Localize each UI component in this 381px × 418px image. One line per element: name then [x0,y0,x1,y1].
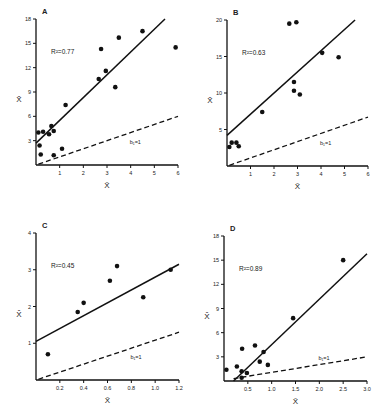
data-point [287,21,292,26]
r-squared-annotation: R²=0.89 [239,265,263,272]
y-tick-label: 3 [28,267,31,273]
r-squared-annotation: R²=0.77 [51,48,75,55]
data-point [51,153,56,158]
data-point [224,367,229,372]
data-point [36,130,41,135]
data-point [266,363,271,368]
x-tick-label: 0.5 [244,386,252,392]
x-tick-label: 2.0 [316,386,324,392]
reference-line-label: b₁=1 [318,355,329,361]
y-tick-label: 3 [28,138,31,144]
figure-four-panel-scatter: 369121518123456AX̄X̂R²=0.77b₁=1510152012… [0,0,381,418]
data-point [46,352,51,357]
x-tick-label: 0.8 [128,385,136,391]
x-axis-label: X̄ [105,396,111,405]
regression-line [227,20,355,135]
panel-letter: A [42,7,48,16]
x-tick-label: 5 [153,170,156,176]
y-tick-label: 9 [216,306,219,312]
y-tick-label: 15 [213,257,219,263]
data-point [227,145,232,150]
data-point [60,146,65,151]
data-point [292,80,297,85]
data-point [113,85,118,90]
x-tick-label: 2 [272,171,275,177]
reference-line-label: b₁=1 [130,139,141,145]
data-point [236,144,241,149]
reference-line-b1 [38,332,179,379]
data-point [75,310,80,315]
data-point [47,132,52,137]
data-point [294,20,299,25]
y-tick-label: 5 [219,127,222,133]
data-point [298,92,303,97]
data-point [117,35,122,40]
y-axis-label: X̂ [16,310,22,319]
data-point [108,278,113,283]
reference-line-label: b₁=1 [130,354,141,360]
y-tick-label: 1 [28,340,31,346]
y-axis-label: X̂ [207,96,213,105]
data-point [63,103,68,108]
data-point [140,29,145,34]
x-tick-label: 0.2 [56,385,64,391]
x-tick-label: 2.5 [339,386,347,392]
y-tick-label: 10 [216,90,222,96]
panel-a: 369121518123456AX̄X̂R²=0.77b₁=1 [16,7,179,190]
x-tick-label: 6 [366,171,369,177]
y-tick-label: 15 [25,40,31,46]
x-tick-label: 2 [82,170,85,176]
y-tick-label: 9 [28,89,31,95]
data-point [291,316,296,321]
x-tick-label: 1.0 [151,385,159,391]
x-tick-label: 4 [319,171,322,177]
data-point [320,51,325,56]
y-tick-label: 4 [28,230,31,236]
data-point [336,55,341,60]
data-point [99,47,104,52]
data-point [168,267,173,272]
x-tick-label: 1.0 [268,386,276,392]
data-point [292,89,297,94]
reference-line-b1 [38,116,178,164]
data-point [235,364,240,369]
y-tick-label: 6 [28,113,31,119]
data-point [260,110,265,115]
data-point [239,369,244,374]
y-tick-label: 6 [216,330,219,336]
x-tick-label: 1 [58,170,61,176]
x-tick-label: 0.6 [104,385,112,391]
x-tick-label: 4 [129,170,132,176]
data-point [173,45,178,50]
data-point [253,343,258,348]
regression-line [234,254,367,381]
panel-d: 3691215180.51.01.52.02.53.0DX̄X̂R²=0.89b… [204,224,371,406]
data-point [257,359,262,364]
panel-letter: C [42,221,48,230]
x-tick-label: 0.4 [80,385,88,391]
y-tick-label: 20 [216,17,222,23]
x-tick-label: 3 [105,170,108,176]
x-tick-label: 3.0 [363,386,371,392]
y-axis-label: X̂ [204,312,210,321]
y-tick-label: 18 [213,233,219,239]
panel-letter: D [230,224,236,233]
reference-line-b1 [229,117,368,165]
data-point [41,129,46,134]
data-point [341,258,346,263]
panel-c: 12340.20.40.60.81.01.2CX̄X̂R²=0.45b₁=1 [16,221,183,405]
data-point [38,152,43,157]
r-squared-annotation: R²=0.63 [242,49,266,56]
y-tick-label: 18 [25,16,31,22]
data-point [141,295,146,300]
panel-b: 5101520123456BX̄X̂R²=0.63b₁=1 [207,8,369,191]
y-tick-label: 3 [216,354,219,360]
reference-line-b1 [234,357,367,379]
x-tick-label: 1.2 [175,385,183,391]
regression-line [36,264,179,341]
x-tick-label: 3 [296,171,299,177]
data-point [229,140,234,145]
y-tick-label: 12 [25,65,31,71]
data-point [115,264,120,269]
regression-line [36,19,165,143]
